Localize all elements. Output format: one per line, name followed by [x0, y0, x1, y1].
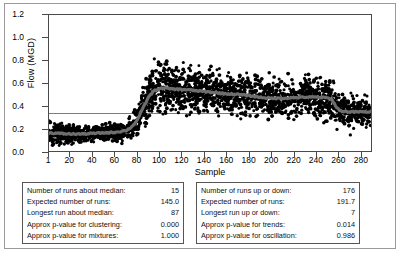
y-tick-label: 0.0: [0, 148, 24, 157]
table-row: Expected number of runs:191.7: [201, 196, 355, 207]
y-tick-label: 0.2: [0, 125, 24, 134]
y-tick-label: 0.6: [0, 79, 24, 88]
runs-up-or-down-table: Number of runs up or down:176Expected nu…: [196, 182, 360, 244]
stat-value: 145.0: [155, 196, 179, 207]
stat-label: Approx p-value for mixtures:: [27, 230, 118, 241]
table-row: Number of runs up or down:176: [201, 185, 355, 196]
x-tick-mark: [181, 152, 182, 157]
x-tick-mark: [361, 152, 362, 157]
stat-value: 0.000: [155, 219, 179, 230]
x-tick-mark: [159, 152, 160, 157]
stat-label: Expected number of runs:: [201, 196, 285, 207]
stat-value: 1.000: [155, 230, 179, 241]
stat-value: 0.014: [331, 219, 355, 230]
x-tick-mark: [338, 152, 339, 157]
table-row: Longest run up or down:7: [201, 207, 355, 218]
stat-value: 191.7: [331, 196, 355, 207]
statistics-tables: Number of runs about median:15Expected n…: [10, 182, 390, 244]
stat-value: 0.986: [331, 230, 355, 241]
stat-label: Number of runs about median:: [27, 185, 126, 196]
x-tick-mark: [92, 152, 93, 157]
y-axis-label: Flow (MGD): [26, 8, 36, 118]
stat-label: Approx p-value for clustering:: [27, 219, 122, 230]
x-tick-mark: [316, 152, 317, 157]
plot-area: [48, 14, 372, 152]
x-tick-mark: [249, 152, 250, 157]
stat-label: Longest run about median:: [27, 207, 114, 218]
stat-label: Longest run up or down:: [201, 207, 280, 218]
x-tick-mark: [137, 152, 138, 157]
table-row: Approx p-value for clustering:0.000: [27, 219, 179, 230]
table-row: Number of runs about median:15: [27, 185, 179, 196]
table-row: Approx p-value for trends:0.014: [201, 219, 355, 230]
stat-label: Approx p-value for trends:: [201, 219, 285, 230]
table-row: Approx p-value for mixtures:1.000: [27, 230, 179, 241]
x-tick-mark: [48, 152, 49, 157]
x-tick-label: 280: [348, 156, 374, 165]
flow-chart: Flow (MGD) 0.00.20.40.60.81.01.2 1204060…: [10, 8, 390, 178]
table-row: Approx p-value for oscillation:0.986: [201, 230, 355, 241]
chart-page: Flow (MGD) 0.00.20.40.60.81.01.2 1204060…: [0, 0, 400, 253]
stat-label: Approx p-value for oscillation:: [201, 230, 297, 241]
stat-value: 176: [337, 185, 355, 196]
y-tick-label: 1.2: [0, 10, 24, 19]
x-tick-mark: [294, 152, 295, 157]
x-tick-mark: [226, 152, 227, 157]
stat-label: Expected number of runs:: [27, 196, 111, 207]
y-tick-label: 0.8: [0, 56, 24, 65]
stat-value: 7: [345, 207, 355, 218]
y-tick-label: 1.0: [0, 33, 24, 42]
stat-label: Number of runs up or down:: [201, 185, 291, 196]
x-axis-label: Sample: [48, 167, 372, 177]
x-tick-mark: [204, 152, 205, 157]
x-tick-mark: [271, 152, 272, 157]
table-row: Longest run about median:87: [27, 207, 179, 218]
runs-about-median-table: Number of runs about median:15Expected n…: [22, 182, 184, 244]
table-row: Expected number of runs:145.0: [27, 196, 179, 207]
x-tick-mark: [69, 152, 70, 157]
stat-value: 87: [165, 207, 179, 218]
x-tick-mark: [114, 152, 115, 157]
trend-line: [49, 15, 371, 151]
y-tick-label: 0.4: [0, 102, 24, 111]
stat-value: 15: [165, 185, 179, 196]
